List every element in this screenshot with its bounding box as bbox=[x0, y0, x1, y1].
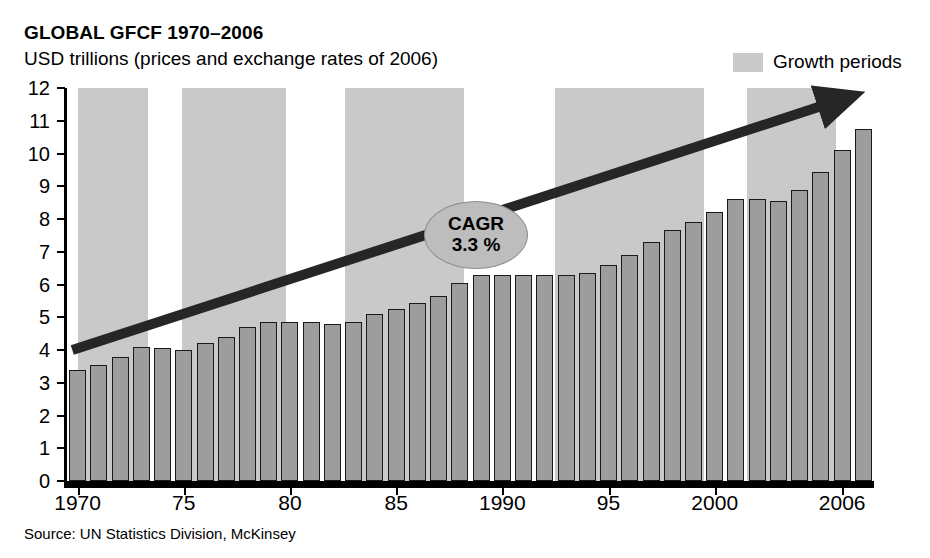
bar bbox=[643, 242, 660, 481]
bar bbox=[621, 255, 638, 481]
y-axis-tick bbox=[57, 349, 65, 351]
bar bbox=[834, 150, 851, 481]
bar bbox=[451, 283, 468, 481]
y-axis-label: 6 bbox=[20, 275, 50, 295]
y-axis-label: 5 bbox=[20, 307, 50, 327]
y-axis-label: 7 bbox=[20, 242, 50, 262]
x-axis-label: 80 bbox=[278, 492, 301, 513]
x-axis-label: 2000 bbox=[691, 492, 738, 513]
x-axis-label: 95 bbox=[597, 492, 620, 513]
y-axis-label: 4 bbox=[20, 340, 50, 360]
y-axis-label: 8 bbox=[20, 209, 50, 229]
bar bbox=[558, 275, 575, 481]
y-axis-label: 2 bbox=[20, 406, 50, 426]
y-axis-tick bbox=[57, 284, 65, 286]
y-axis-tick bbox=[57, 382, 65, 384]
bar bbox=[770, 201, 787, 481]
y-axis-tick bbox=[57, 316, 65, 318]
y-axis-label: 0 bbox=[20, 471, 50, 491]
y-axis-label: 1 bbox=[20, 438, 50, 458]
x-axis-label: 85 bbox=[384, 492, 407, 513]
y-axis-tick bbox=[57, 153, 65, 155]
plot-area: 0123456789101112 19707580851990952000200… bbox=[0, 0, 930, 558]
bar bbox=[69, 370, 86, 481]
bar bbox=[303, 322, 320, 481]
bar bbox=[388, 309, 405, 481]
bar bbox=[133, 347, 150, 481]
bar bbox=[685, 222, 702, 481]
bar bbox=[727, 199, 744, 481]
bar bbox=[664, 230, 681, 481]
y-axis-tick bbox=[57, 447, 65, 449]
bar bbox=[515, 275, 532, 481]
bar bbox=[281, 322, 298, 481]
chart-page: GLOBAL GFCF 1970–2006 USD trillions (pri… bbox=[0, 0, 930, 558]
bar bbox=[536, 275, 553, 481]
bar bbox=[324, 324, 341, 481]
y-axis-tick bbox=[57, 87, 65, 89]
bar bbox=[218, 337, 235, 481]
cagr-callout: CAGR 3.3 % bbox=[424, 201, 528, 269]
y-axis-label: 10 bbox=[20, 144, 50, 164]
bar bbox=[600, 265, 617, 481]
y-axis-tick bbox=[57, 218, 65, 220]
y-axis-tick bbox=[57, 415, 65, 417]
y-axis-tick bbox=[57, 251, 65, 253]
bar bbox=[260, 322, 277, 481]
bar bbox=[791, 190, 808, 481]
x-axis-label: 75 bbox=[172, 492, 195, 513]
y-axis-tick bbox=[57, 480, 65, 482]
bar bbox=[812, 172, 829, 481]
bar bbox=[90, 365, 107, 481]
bar bbox=[197, 343, 214, 481]
y-axis-tick bbox=[57, 120, 65, 122]
y-axis-label: 12 bbox=[20, 78, 50, 98]
x-axis-label: 2006 bbox=[819, 492, 866, 513]
bar bbox=[175, 350, 192, 481]
cagr-label: CAGR bbox=[448, 214, 504, 234]
x-axis-line bbox=[64, 481, 874, 488]
bar bbox=[706, 212, 723, 481]
bar bbox=[366, 314, 383, 481]
bar bbox=[855, 129, 872, 481]
bar bbox=[473, 275, 490, 481]
bar bbox=[409, 303, 426, 481]
bar bbox=[749, 199, 766, 481]
y-axis-line bbox=[64, 88, 67, 483]
x-axis-label: 1990 bbox=[479, 492, 526, 513]
y-axis-label: 9 bbox=[20, 176, 50, 196]
bar bbox=[494, 275, 511, 481]
y-axis-label: 11 bbox=[20, 111, 50, 131]
x-axis-label: 1970 bbox=[54, 492, 101, 513]
bar bbox=[345, 322, 362, 481]
bar bbox=[154, 348, 171, 481]
y-axis-tick bbox=[57, 185, 65, 187]
cagr-value: 3.3 % bbox=[452, 234, 501, 256]
source-note: Source: UN Statistics Division, McKinsey bbox=[24, 525, 296, 542]
bar bbox=[112, 357, 129, 481]
bar bbox=[579, 273, 596, 481]
bar bbox=[239, 327, 256, 481]
y-axis-label: 3 bbox=[20, 373, 50, 393]
bar bbox=[430, 296, 447, 481]
